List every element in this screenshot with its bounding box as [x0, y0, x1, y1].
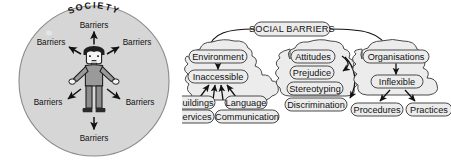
circle-highlight: [46, 31, 52, 36]
node-services-label: Services: [182, 112, 212, 122]
node-inflexible-label: Inflexible: [379, 77, 415, 87]
node-organisations-label: Organisations: [368, 52, 425, 62]
node-stereotyping-label: Stereotyping: [289, 84, 341, 94]
node-buildings-label: Buildings: [182, 98, 214, 108]
node-inaccessible[interactable]: Inaccessible: [188, 70, 248, 83]
cluster-environment[interactable]: Environment Inaccessible Buildings: [182, 40, 279, 123]
node-discrimination[interactable]: Discrimination: [285, 98, 347, 111]
node-language[interactable]: Language: [225, 96, 267, 109]
root-node-label: SOCIAL BARRIERS: [249, 24, 335, 34]
cluster-attitudes[interactable]: Attitudes Prejudice Stereotyping Discrim…: [276, 40, 358, 111]
node-inaccessible-label: Inaccessible: [193, 72, 244, 82]
social-barriers-diagram: SOCIAL BARRIERS Environment Inac: [182, 0, 451, 160]
node-services[interactable]: Services: [182, 110, 214, 123]
node-environment-label: Environment: [192, 52, 244, 62]
node-prejudice-label: Prejudice: [293, 68, 331, 78]
node-communication[interactable]: Communication: [215, 110, 279, 123]
node-attitudes[interactable]: Attitudes: [291, 50, 335, 63]
node-inflexible[interactable]: Inflexible: [371, 75, 423, 88]
node-procedures[interactable]: Procedures: [351, 103, 403, 116]
cluster-organisations[interactable]: Organisations Inflexible Procedures Prac…: [351, 40, 451, 117]
node-communication-label: Communication: [215, 112, 279, 122]
node-stereotyping[interactable]: Stereotyping: [287, 82, 343, 95]
barrier-label-top: Barriers: [80, 21, 109, 30]
barrier-label-lower-right: Barriers: [126, 98, 155, 107]
node-organisations[interactable]: Organisations: [363, 50, 429, 63]
root-node-social-barriers[interactable]: SOCIAL BARRIERS: [249, 22, 335, 36]
society-diagram: SOCIETY: [0, 0, 188, 160]
node-environment[interactable]: Environment: [189, 50, 247, 63]
barrier-label-lower-left: Barriers: [34, 98, 63, 107]
node-prejudice[interactable]: Prejudice: [290, 66, 334, 79]
barrier-label-upper-right: Barriers: [123, 38, 152, 47]
figure-canvas: SOCIETY: [0, 0, 451, 160]
node-language-label: Language: [226, 98, 267, 108]
node-practices[interactable]: Practices: [406, 103, 451, 116]
node-practices-label: Practices: [410, 105, 448, 115]
node-discrimination-label: Discrimination: [287, 100, 345, 110]
barrier-label-upper-left: Barriers: [37, 38, 66, 47]
barrier-label-bottom: Barriers: [80, 134, 109, 143]
node-buildings[interactable]: Buildings: [182, 96, 215, 109]
node-attitudes-label: Attitudes: [295, 52, 331, 62]
node-procedures-label: Procedures: [354, 105, 401, 115]
